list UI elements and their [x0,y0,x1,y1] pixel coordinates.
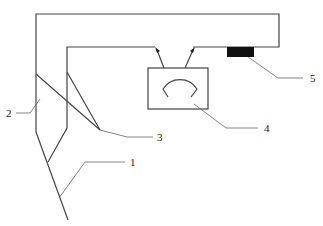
crossing-branch-line-a [36,74,100,130]
gauge-connector-left [157,50,164,68]
arrowhead-left-icon [155,47,160,53]
lower-diagonal-line [36,132,68,220]
label-3: 3 [157,131,163,143]
label-1: 1 [130,156,136,168]
leader-line-5 [248,57,303,78]
arrowhead-right-icon [190,47,195,53]
black-block [227,47,254,57]
leader-line-1 [59,162,125,198]
label-2: 2 [6,107,12,119]
inner-pipe-line [48,47,155,162]
crossing-branch-line-b [67,72,100,130]
leader-line-4 [194,104,258,128]
label-4: 4 [264,122,270,134]
gauge-box [148,68,208,109]
diagram-canvas: 1 2 3 4 5 [0,0,323,226]
label-5: 5 [310,72,316,84]
gauge-connector-right [185,50,193,68]
leader-line-3 [100,130,153,137]
outer-pipe-line [36,14,279,132]
gauge-dial-icon [163,80,197,97]
